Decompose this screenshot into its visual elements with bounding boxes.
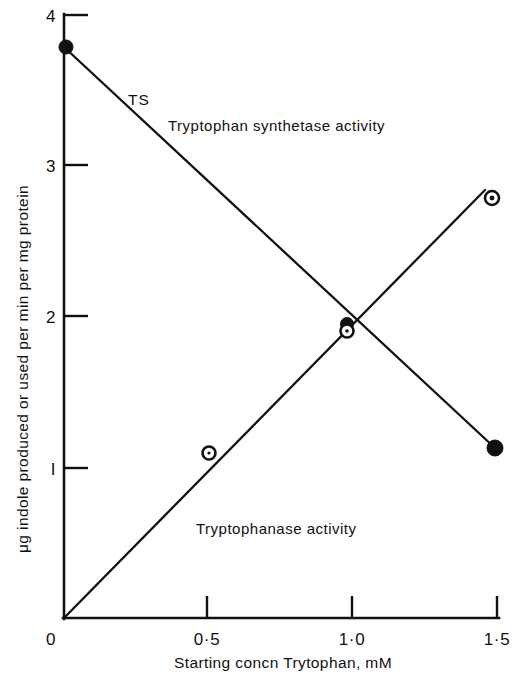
series-annotations: TS Tryptophan synthetase activity Trypto… bbox=[128, 91, 385, 537]
data-point-tpase-1-0 bbox=[341, 325, 354, 338]
figure-container: 4 3 2 I 0 0·5 1·0 1·5 bbox=[0, 0, 517, 678]
y-axis-ticks bbox=[64, 15, 88, 468]
x-axis-tick-labels: 0·5 1·0 1·5 bbox=[194, 630, 510, 649]
x-axis-title: Starting concn Trytophan, mM bbox=[174, 654, 392, 671]
y-tick-label-4: 4 bbox=[46, 7, 56, 26]
series-tryptophan-synthetase bbox=[59, 40, 503, 456]
y-tick-label-1: I bbox=[51, 460, 56, 479]
y-axis-title: μg indole produced or used per min per m… bbox=[14, 185, 31, 553]
x-tick-label-1-0: 1·0 bbox=[339, 630, 365, 649]
y-tick-label-0: 0 bbox=[46, 630, 56, 649]
series-tryptophanase bbox=[64, 190, 499, 618]
data-point-tpase-0-5 bbox=[203, 447, 216, 460]
annotation-tryptophanase-activity: Tryptophanase activity bbox=[196, 520, 357, 537]
data-point-ts-0 bbox=[59, 40, 73, 54]
x-axis-ticks bbox=[207, 596, 497, 618]
annotation-tryptophan-synthetase-activity: Tryptophan synthetase activity bbox=[168, 117, 385, 134]
x-tick-label-1-5: 1·5 bbox=[484, 630, 510, 649]
annotation-ts-abbrev: TS bbox=[128, 91, 150, 108]
data-point-tpase-1-45 bbox=[485, 191, 499, 205]
data-point-ts-2 bbox=[487, 440, 503, 456]
y-axis-tick-labels: 4 3 2 I 0 bbox=[46, 7, 56, 649]
axis-titles: Starting concn Trytophan, mM μg indole p… bbox=[14, 185, 392, 671]
series-line-tryptophanase bbox=[64, 190, 485, 618]
x-tick-label-0-5: 0·5 bbox=[194, 630, 220, 649]
y-tick-label-2: 2 bbox=[46, 308, 56, 327]
y-tick-label-3: 3 bbox=[46, 157, 56, 176]
chart-canvas: 4 3 2 I 0 0·5 1·0 1·5 bbox=[0, 0, 517, 678]
